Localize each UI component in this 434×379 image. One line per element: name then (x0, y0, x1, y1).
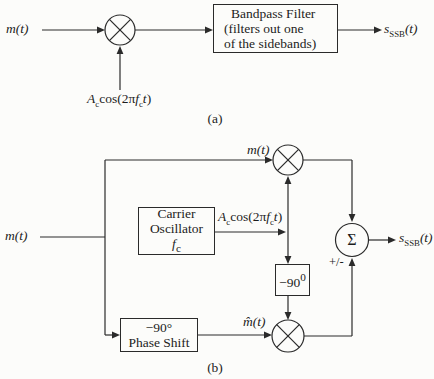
phase-shift-line1: −90° (121, 320, 197, 335)
math-args: (t) (253, 314, 266, 329)
bandpass-line2: (filters out one (214, 21, 337, 36)
wire-b-oscillator-out (215, 229, 286, 236)
math-var: A (87, 91, 95, 106)
wire-b-quadbox-to-botmult (285, 296, 292, 320)
wire-a-input (42, 27, 105, 34)
input-signal-label-b: m(t) (5, 229, 28, 244)
wire-b-input (40, 160, 105, 335)
math-args: (t) (405, 21, 418, 36)
wire-b-phaseshift-to-botmult (198, 332, 272, 339)
caption-b: (b) (200, 361, 230, 376)
math-sub: SSB (389, 29, 405, 39)
oscillator-freq: fc (139, 236, 214, 256)
math-sup: 0 (300, 271, 306, 283)
bandpass-filter-block: Bandpass Filter (filters out one of the … (213, 4, 338, 53)
math-var: m (5, 228, 15, 243)
bandpass-line1: Bandpass Filter (214, 6, 337, 21)
ssb-modulator-figure: m(t) Bandpass Filter (filters out one of… (0, 0, 434, 379)
wire-b-carrier-vertical (285, 176, 292, 264)
math-args: (t) (16, 21, 29, 36)
math-args: (t) (257, 142, 270, 157)
wire-a-filter-to-output (338, 27, 382, 34)
carrier-signal-label-b: Accos(2πfct) (218, 210, 282, 225)
quadrature-90-block: −900 (275, 264, 310, 296)
math-args: (t) (15, 228, 28, 243)
math-text: cos(2π (230, 209, 266, 224)
summer-sign-label: +/- (329, 256, 344, 270)
math-var: m̂ (243, 314, 253, 329)
wire-b-summer-to-output (369, 237, 397, 244)
caption-a: (a) (200, 112, 230, 127)
bandpass-line3: of the sidebands) (214, 36, 337, 51)
summer-symbol: Σ (342, 231, 362, 249)
math-text: ) (147, 91, 152, 106)
output-signal-label-b: sSSB(t) (399, 231, 433, 246)
math-text: ) (278, 209, 283, 224)
output-signal-label-a: sSSB(t) (384, 22, 418, 37)
wire-a-carrier-input (117, 46, 124, 90)
wiring-layer (0, 0, 434, 379)
carrier-oscillator-block: Carrier Oscillator fc (138, 207, 215, 255)
math-sub: c (176, 242, 181, 254)
math-var: m (6, 21, 16, 36)
phase-shift-block: −90° Phase Shift (120, 318, 198, 352)
top-branch-signal-label: m(t) (247, 143, 270, 158)
input-signal-label-a: m(t) (6, 22, 29, 37)
wire-b-topmult-to-summer (303, 160, 355, 222)
oscillator-line2: Oscillator (139, 221, 214, 236)
math-var: A (218, 209, 226, 224)
math-var: m (247, 142, 257, 157)
multiplier-node-b-top (273, 145, 303, 175)
carrier-signal-label-a: Accos(2πfct) (87, 92, 151, 107)
math-text: −90 (279, 275, 300, 290)
wire-a-multiplier-to-filter (135, 27, 213, 34)
math-text: cos(2π (99, 91, 135, 106)
quadrature-90-label: −900 (276, 270, 309, 290)
math-sub: SSB (404, 238, 420, 248)
hilbert-signal-label: m̂(t) (243, 315, 266, 330)
multiplier-node-b-bottom (272, 320, 304, 352)
wire-b-to-phaseshift (105, 332, 120, 339)
math-args: (t) (420, 230, 433, 245)
oscillator-line1: Carrier (139, 206, 214, 221)
multiplier-node-a (105, 15, 135, 45)
phase-shift-line2: Phase Shift (121, 335, 197, 350)
